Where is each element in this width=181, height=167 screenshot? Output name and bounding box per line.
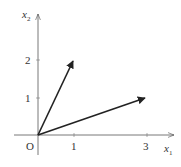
x-axis-label: x1 — [163, 142, 173, 157]
vector-diagram: O 1 3 1 2 x1 x2 — [0, 0, 181, 167]
y-axis-label: x2 — [21, 8, 31, 23]
x-tick-label-1: 1 — [71, 140, 77, 152]
origin-label: O — [26, 140, 34, 152]
y-tick-label-2: 2 — [25, 54, 31, 66]
x-tick-label-3: 3 — [143, 140, 149, 152]
vector-3-1 — [38, 98, 145, 135]
y-tick-label-1: 1 — [25, 92, 31, 104]
